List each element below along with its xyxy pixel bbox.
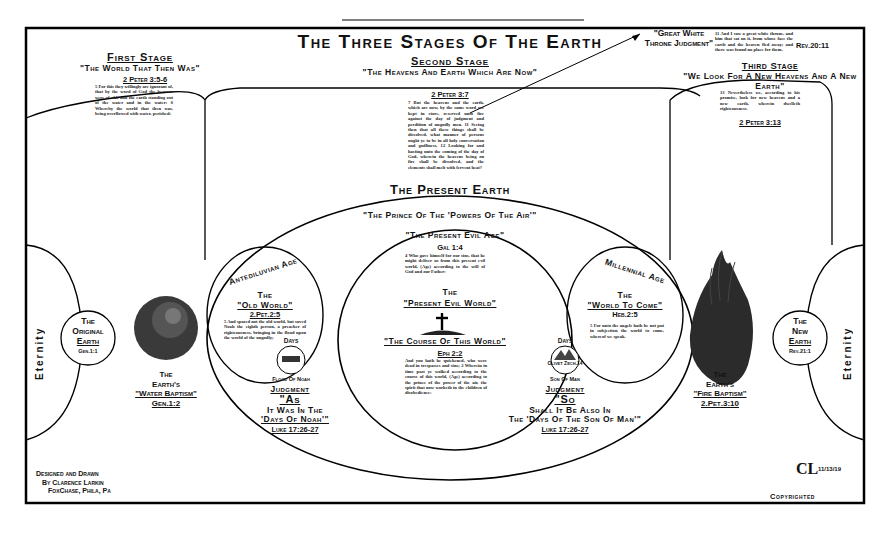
first-stage-reference: 2 Peter 3:5-6 <box>90 75 200 84</box>
great-white-throne-reference: Rev.20:11 <box>796 41 829 50</box>
old-world-title: "Old World" <box>220 300 310 310</box>
original-earth-line1: The <box>61 316 115 326</box>
third-stage-verse: 13 Nevertheless we, according to his pro… <box>720 90 800 112</box>
great-white-throne-label: "Great White Throne Judgment" <box>644 28 714 48</box>
eph-verse: And you hath he quickened, who were dead… <box>405 358 487 396</box>
monogram: CL <box>796 460 818 478</box>
new-earth-line2: New <box>773 326 827 336</box>
original-earth-label: The Original Earth Gen.1:1 <box>61 316 115 356</box>
third-stage-heading: Third Stage <box>680 60 860 71</box>
olivet-badge-mid: Olivet Zech.14 <box>545 360 585 366</box>
credits-line2: By Clarence Larkin <box>36 479 111 488</box>
second-stage-reference: 2 Peter 3:7 <box>400 90 500 99</box>
water-baptism-label: The Earth's "Water Baptism" Gen.1:2 <box>116 370 216 408</box>
olivet-badge-bottom: Son Of Man <box>543 376 587 382</box>
world-to-come-the: The <box>580 290 670 300</box>
millennial-so: "So <box>545 393 585 405</box>
new-earth-line3: Earth <box>773 336 827 346</box>
world-to-come-title: "World To Come" <box>575 300 675 310</box>
great-white-throne-verse: 11 And I saw a great white throne, and h… <box>715 31 793 53</box>
original-earth-line3: Earth <box>61 336 115 346</box>
fire-baptism-label: The Earth's "Fire Baptism" 2.Pet.3:10 <box>670 370 770 408</box>
new-earth-label: The New Earth Rev.21:1 <box>773 316 827 356</box>
second-stage-heading: Second Stage <box>300 55 600 67</box>
gal-verse: 4 Who gave himself for our sins, that he… <box>405 253 485 275</box>
gal-reference: Gal 1:4 <box>420 243 480 252</box>
world-to-come-verse: 5 For unto the angels hath he not put in… <box>590 323 664 339</box>
present-evil-world-the: The <box>380 287 520 297</box>
signature-date: 11/13/19 <box>818 466 841 472</box>
first-stage-subtitle: "The World That Then Was" <box>40 63 240 73</box>
present-evil-age: "The Present Evil Age" <box>360 230 550 240</box>
flood-badge-bottom: Flood Of Noah <box>270 376 312 382</box>
first-stage-verse: 5 For this they willingly are ignorant o… <box>95 84 173 116</box>
old-world-reference: 2.Pet.2:5 <box>230 310 300 319</box>
diagram-title: The Three Stages Of The Earth <box>250 31 650 53</box>
days-son-of-man: The 'Days Of The Son Of Man'" <box>500 414 650 424</box>
original-earth-line2: Original <box>61 326 115 336</box>
fire-baptism-line1: The <box>670 370 770 380</box>
credits-line3: FoxChase, Phila, Pa <box>36 487 111 496</box>
second-stage-verse: 7 But the heavens and the earth, which a… <box>408 100 484 170</box>
eph-reference: Eph 2:2 <box>420 349 480 358</box>
copyright: Copyrighted <box>770 492 815 501</box>
first-stage-block: First Stage "The World That Then Was" <box>40 51 240 73</box>
credits-line1: Designed and Drawn <box>36 470 111 479</box>
eternity-right: Eternity <box>842 300 853 380</box>
new-earth-line1: The <box>773 316 827 326</box>
second-stage-subtitle: "The Heavens And Earth Which Are Now" <box>300 67 600 77</box>
fire-baptism-line2: Earth's <box>670 380 770 390</box>
water-baptism-line2: Earth's <box>116 380 216 390</box>
second-stage-block: Second Stage "The Heavens And Earth Whic… <box>300 55 600 77</box>
eternity-left: Eternity <box>34 300 45 380</box>
olivet-badge-top: Days <box>549 337 581 344</box>
days-of-noah: 'Days Of Noah'" <box>250 414 340 424</box>
world-to-come-reference: Heb.2:5 <box>590 310 660 319</box>
antediluvian-as: "As <box>270 393 310 405</box>
present-earth-heading: The Present Earth <box>330 182 570 197</box>
third-stage-block: Third Stage "We Look For A New Heavens A… <box>680 60 860 91</box>
fire-baptism-line3: "Fire Baptism" <box>670 389 770 399</box>
fire-baptism-reference: 2.Pet.3:10 <box>670 399 770 409</box>
third-stage-reference: 2 Peter 3:13 <box>720 118 800 127</box>
millennial-luke-reference: Luke 17:26-27 <box>530 425 600 434</box>
first-stage-heading: First Stage <box>40 51 240 63</box>
credits: Designed and Drawn By Clarence Larkin Fo… <box>36 470 111 496</box>
water-baptism-reference: Gen.1:2 <box>116 399 216 409</box>
flood-badge-top: Days <box>275 337 307 344</box>
old-world-the: The <box>220 290 310 300</box>
course-of-this-world: "The Course Of This World" <box>370 336 520 346</box>
water-baptism-line1: The <box>116 370 216 380</box>
original-earth-reference: Gen.1:1 <box>61 346 115 356</box>
prince-of-powers-arc: "The Prince Of The 'Powers Of The Air'" <box>320 210 580 220</box>
third-stage-subtitle: "We Look For A New Heavens And A New Ear… <box>680 71 860 91</box>
water-baptism-line3: "Water Baptism" <box>116 389 216 399</box>
new-earth-reference: Rev.21:1 <box>773 346 827 356</box>
present-evil-world: "Present Evil World" <box>380 298 520 308</box>
antediluvian-luke-reference: Luke 17:26-27 <box>260 425 330 434</box>
